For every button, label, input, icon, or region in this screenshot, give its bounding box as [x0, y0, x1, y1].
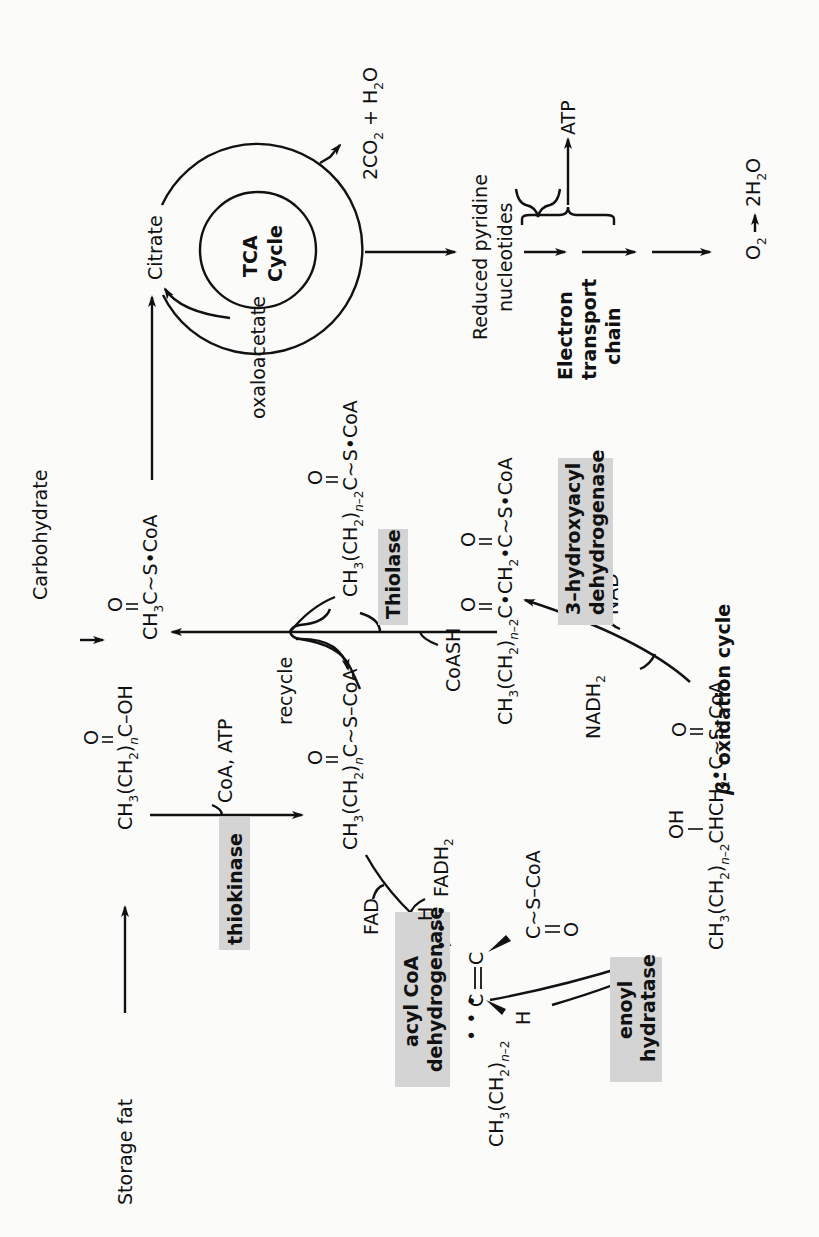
tca-products-label: 2CO2 + H2O: [359, 67, 386, 180]
thiolase-label: Thiolase: [382, 529, 404, 619]
svg-text:O: O: [304, 470, 326, 485]
coa-atp-branch: [212, 805, 222, 815]
carbohydrate-label: Carbohydrate: [29, 470, 51, 600]
etc-label-2: transport: [578, 279, 600, 380]
fatty-acid-structure: CH3(CH2)nC–OH O: [80, 685, 141, 830]
atp-brace: [516, 189, 560, 217]
oxaloacetate-label: oxaloacetate: [247, 296, 269, 419]
fad-branch: [373, 885, 384, 899]
tca-label-1: TCA: [239, 235, 261, 277]
reduced-nucleotides-label-2: nucleotides: [494, 202, 516, 312]
svg-text:H: H: [512, 1011, 534, 1025]
svg-text:O: O: [104, 597, 126, 612]
etc-label-3: chain: [602, 307, 624, 365]
coa-atp-label: CoA, ATP: [214, 718, 236, 803]
reduced-nucleotides-label-1: Reduced pyridine: [469, 174, 491, 340]
svg-text:O: O: [668, 722, 690, 737]
enoyl-hydratase-label-2: hydratase: [637, 954, 659, 1062]
svg-text:O: O: [304, 750, 326, 765]
svg-text:CH3(CH2)n–2: CH3(CH2)n–2: [485, 1041, 512, 1147]
co2-release-arrow: [320, 145, 340, 163]
ketoacyl-coa-structure: CH3(CH2)n–2C•CH2•C∼S•CoA O O: [457, 457, 521, 725]
tca-label-2: Cycle: [264, 225, 286, 282]
shortened-acyl-coa-branch: [360, 613, 380, 632]
svg-text:CH3C∼S•CoA: CH3C∼S•CoA: [139, 514, 166, 640]
nadh2-branch: [640, 654, 655, 669]
thiokinase-label: thiokinase: [224, 833, 246, 945]
diagram-canvas-rotated: Storage fat CH3(CH2)nC–OH O CoA, ATP thi…: [0, 0, 819, 1237]
citrate-label: Citrate: [144, 215, 166, 280]
svg-text:CH3(CH2)n–2C∼S•CoA: CH3(CH2)n–2C∼S•CoA: [339, 400, 366, 597]
hydroxyacyl-dehydrogenase-label-1: 3–hydroxyacyl: [562, 463, 584, 615]
svg-text:O: O: [560, 922, 582, 937]
shortened-acyl-coa-structure: CH3(CH2)n–2C∼S•CoA O: [304, 400, 366, 597]
acetyl-coa-structure: CH3C∼S•CoA O: [104, 514, 166, 640]
svg-text:OH: OH: [665, 810, 687, 839]
enoyl-hydratase-label-1: enoyl: [614, 981, 636, 1039]
svg-text:C: C: [465, 952, 487, 965]
acyl-coa-dehydrogenase-label-1: acyl CoA: [400, 955, 422, 1047]
svg-text:O: O: [80, 730, 102, 745]
svg-text:O: O: [457, 597, 479, 612]
recycle-label: recycle: [274, 657, 296, 725]
coash-branch: [420, 632, 438, 645]
nadh2-label: NADH2: [582, 675, 608, 739]
hydroxyacyl-dehydrogenase-label-2: dehydrogenase: [586, 450, 608, 615]
enoyl-hydratase-arrow-shaft: [490, 965, 630, 1000]
figure-caption: β– oxidation cycle: [712, 604, 734, 796]
fadh2-label: FADH2: [430, 838, 456, 897]
etc-label-1: Electron: [554, 291, 576, 380]
respiration-chain: Reduced pyridine nucleotides Electron tr…: [469, 100, 769, 380]
svg-text:O: O: [457, 532, 479, 547]
coash-label: CoASH: [442, 628, 464, 692]
svg-text:CH3(CH2)nC–OH: CH3(CH2)nC–OH: [114, 685, 141, 830]
fatty-acyl-coa-structure: CH3(CH2)nC∼S–CoA O: [304, 669, 366, 850]
svg-text:H: H: [414, 907, 436, 921]
water-label: 2H2O: [742, 158, 769, 207]
atp-label: ATP: [557, 100, 579, 135]
beta-oxidation-diagram: Storage fat CH3(CH2)nC–OH O CoA, ATP thi…: [0, 0, 819, 1237]
svg-text:C∼S–CoA: C∼S–CoA: [522, 850, 544, 939]
o2-to-water-label: O2: [742, 237, 769, 260]
fad-label: FAD: [360, 898, 382, 935]
tca-cycle: TCA Cycle Citrate oxaloacetate 2CO2 + H2…: [144, 67, 455, 419]
figure-frame: Storage fat CH3(CH2)nC–OH O CoA, ATP thi…: [0, 0, 819, 1237]
svg-text:CH3(CH2)n–2C•CH2•C∼S•CoA: CH3(CH2)n–2C•CH2•C∼S•CoA: [494, 457, 521, 725]
storage-fat-label: Storage fat: [114, 1099, 136, 1205]
svg-text:C: C: [465, 994, 487, 1007]
svg-text:CH3(CH2)nC∼S–CoA: CH3(CH2)nC∼S–CoA: [339, 669, 366, 850]
